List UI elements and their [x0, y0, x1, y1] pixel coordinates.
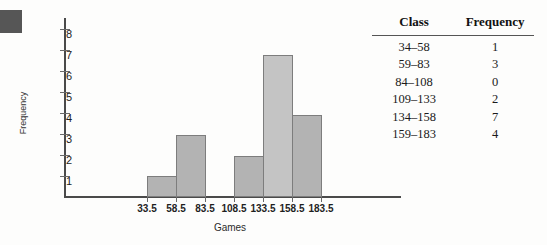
table-row: 84–108 0 [372, 74, 534, 91]
cell-frequency: 0 [456, 74, 534, 91]
cell-frequency: 3 [456, 56, 534, 73]
x-tick-label-7: 183.5 [301, 203, 341, 214]
frequency-distribution-table: Class Frequency 34–58 1 59–83 3 84–108 0 [372, 14, 534, 143]
cell-class: 109–133 [372, 91, 456, 108]
table-header-class: Class [372, 14, 456, 36]
histogram-bar-1 [147, 176, 177, 197]
table-row: 159–183 4 [372, 126, 534, 143]
table-header-row: Class Frequency [372, 14, 534, 36]
x-tick-mark-133.5 [263, 197, 264, 202]
cell-frequency: 2 [456, 91, 534, 108]
table-row: 134–158 7 [372, 108, 534, 125]
cell-class: 34–58 [372, 36, 456, 57]
x-tick-mark-33.5 [147, 197, 148, 202]
y-tick-mark-1 [60, 176, 70, 177]
x-tick-mark-108.5 [234, 197, 235, 202]
cell-class: 134–158 [372, 108, 456, 125]
x-tick-mark-158.5 [292, 197, 293, 202]
y-axis-title: Frequency [18, 81, 28, 145]
cell-class: 84–108 [372, 74, 456, 91]
table-row: 109–133 2 [372, 91, 534, 108]
cell-frequency: 1 [456, 36, 534, 57]
y-tick-mark-2 [60, 155, 70, 156]
histogram-bar-5 [263, 55, 293, 197]
x-axis-title: Games [170, 222, 290, 233]
y-tick-mark-3 [60, 134, 70, 135]
x-tick-mark-183.5 [321, 197, 322, 202]
cell-frequency: 7 [456, 108, 534, 125]
x-axis-line [64, 196, 401, 198]
histogram-chart: Frequency Games 1 2 3 4 5 6 7 [0, 0, 410, 245]
table-header-frequency: Frequency [456, 14, 534, 36]
histogram-bar-2 [176, 135, 206, 197]
y-tick-mark-7 [60, 50, 70, 51]
y-tick-mark-8 [60, 29, 70, 30]
y-axis-line [64, 18, 66, 198]
table-row: 34–58 1 [372, 36, 534, 57]
cell-frequency: 4 [456, 126, 534, 143]
x-tick-mark-58.5 [176, 197, 177, 202]
histogram-and-frequency-table-figure: Frequency Games 1 2 3 4 5 6 7 [0, 0, 547, 245]
cell-class: 59–83 [372, 56, 456, 73]
cell-class: 159–183 [372, 126, 456, 143]
y-tick-mark-5 [60, 92, 70, 93]
histogram-bar-4 [234, 156, 264, 197]
histogram-bar-6 [292, 115, 322, 197]
x-tick-mark-83.5 [205, 197, 206, 202]
y-tick-mark-6 [60, 71, 70, 72]
table-row: 59–83 3 [372, 56, 534, 73]
y-tick-mark-4 [60, 113, 70, 114]
